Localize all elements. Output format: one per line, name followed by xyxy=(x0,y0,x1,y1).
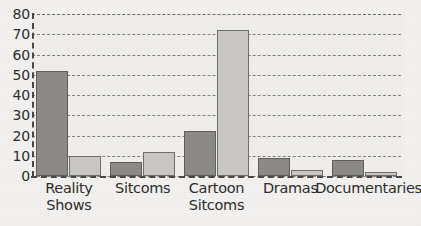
y-tick-label-10: 10 xyxy=(4,149,30,163)
bar[interactable] xyxy=(36,71,68,176)
bar[interactable] xyxy=(69,156,101,176)
y-tick-label-20: 20 xyxy=(4,129,30,143)
bar[interactable] xyxy=(184,131,216,176)
y-tick-label-60: 60 xyxy=(4,48,30,62)
bar-chart: 01020304050607080 Reality ShowsSitcomsCa… xyxy=(0,0,421,226)
y-tick-label-50: 50 xyxy=(4,68,30,82)
bar-groups xyxy=(32,14,401,176)
bar[interactable] xyxy=(110,162,142,176)
bar[interactable] xyxy=(143,152,175,176)
bar-group xyxy=(258,14,323,176)
bar[interactable] xyxy=(332,160,364,176)
y-tick-label-70: 70 xyxy=(4,27,30,41)
bar-group xyxy=(36,14,101,176)
bar-group xyxy=(184,14,249,176)
bar-group xyxy=(332,14,397,176)
y-tick-label-30: 30 xyxy=(4,108,30,122)
x-axis-tick-labels: Reality ShowsSitcomsCartoon SitcomsDrama… xyxy=(32,180,421,226)
bar[interactable] xyxy=(291,170,323,176)
x-axis-line xyxy=(31,176,402,178)
x-tick-label: Documentaries xyxy=(315,180,413,197)
y-tick-label-80: 80 xyxy=(4,7,30,21)
bar-group xyxy=(110,14,175,176)
y-tick-label-40: 40 xyxy=(4,88,30,102)
bar[interactable] xyxy=(365,172,397,176)
bar[interactable] xyxy=(217,30,249,176)
bar[interactable] xyxy=(258,158,290,176)
